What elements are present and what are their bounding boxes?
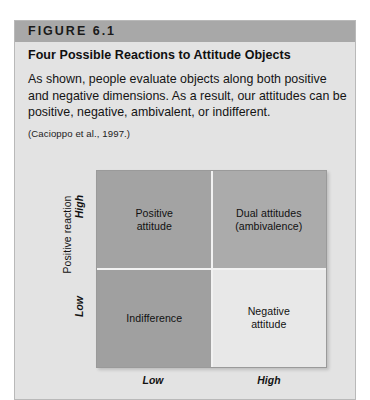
y-axis-title: Positive reaction bbox=[62, 175, 73, 295]
quadrant-label: Dual attitudes (ambivalence) bbox=[235, 207, 302, 232]
quadrant-indifference: Indifference bbox=[97, 269, 212, 367]
quadrant-label: Positive attitude bbox=[136, 207, 174, 232]
figure-title: Four Possible Reactions to Attitude Obje… bbox=[28, 48, 344, 63]
quadrant-label: Indifference bbox=[126, 312, 182, 325]
horizontal-divider bbox=[97, 268, 326, 270]
quadrant-matrix: Positive attitude Dual attitudes (ambiva… bbox=[96, 170, 327, 368]
figure-description: As shown, people evaluate objects along … bbox=[28, 71, 348, 121]
quadrant-positive-attitude: Positive attitude bbox=[97, 171, 212, 269]
figure-header-bar: FIGURE 6.1 bbox=[15, 21, 355, 42]
x-axis-tick-high: High bbox=[229, 375, 309, 386]
quadrant-negative-attitude: Negative attitude bbox=[212, 269, 327, 367]
figure-citation: (Cacioppo et al., 1997.) bbox=[28, 128, 130, 139]
quadrant-chart: Positive reaction High Low Positive atti… bbox=[15, 151, 355, 399]
x-axis-tick-low: Low bbox=[113, 375, 193, 386]
figure-panel: FIGURE 6.1 Four Possible Reactions to At… bbox=[14, 20, 356, 400]
y-axis-tick-high: High bbox=[74, 177, 85, 237]
y-axis-tick-low: Low bbox=[74, 277, 85, 337]
figure-number-label: FIGURE 6.1 bbox=[28, 24, 116, 38]
quadrant-label: Negative attitude bbox=[248, 305, 290, 330]
quadrant-dual-attitudes: Dual attitudes (ambivalence) bbox=[212, 171, 327, 269]
